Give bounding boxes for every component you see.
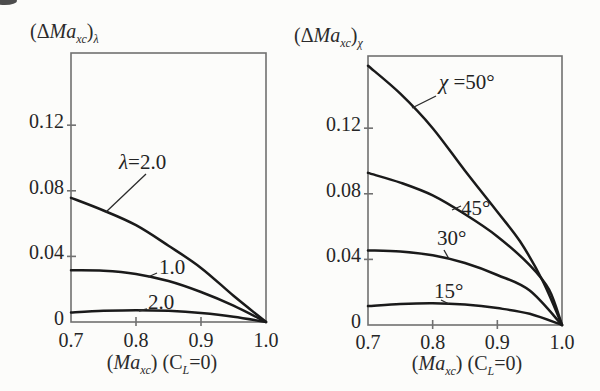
lambda-chart-x-tick-label: 0.9 — [179, 329, 223, 351]
lambda-chart-leader-lambda-2.0 — [106, 174, 146, 212]
lambda-chart-x-tick-label: 1.0 — [244, 329, 288, 351]
chi-chart-curve-label-chi-15: 15° — [434, 279, 463, 304]
chi-chart-x-tick-label: 0.8 — [411, 331, 455, 353]
lambda-chart-y-tick-label: 0.12 — [4, 110, 64, 132]
chi-chart-curve-label-chi-45: 45° — [461, 196, 490, 221]
chi-chart-y-axis-title: (ΔMaxc)χ — [294, 24, 363, 47]
lambda-chart-y-axis-title: (ΔMaxc)λ — [30, 20, 99, 43]
lambda-chart-curve-label-lambda-2.0: λ=2.0 — [119, 150, 166, 175]
lambda-chart-x-tick-label: 0.8 — [114, 329, 158, 351]
chi-chart-x-tick-label: 0.7 — [346, 331, 390, 353]
lambda-chart-y-tick-label: 0 — [4, 307, 64, 329]
chi-chart-y-tick-label: 0 — [301, 310, 361, 332]
lambda-chart-curve-label-lambda-1.0: 1.0 — [159, 255, 185, 280]
chi-chart-x-axis-title: (Maxc) (CL=0) — [412, 352, 522, 375]
chi-chart-leader-chi-50 — [412, 96, 436, 108]
lambda-chart-y-tick-label: 0.04 — [4, 241, 64, 263]
chi-chart-y-tick-label: 0.08 — [301, 179, 361, 201]
lambda-chart-y-tick-label: 0.08 — [4, 176, 64, 198]
chi-chart-curve-label-chi-30: 30° — [437, 226, 466, 251]
scan-smudge — [0, 0, 17, 5]
chi-chart-y-tick-label: 0.12 — [301, 113, 361, 135]
figure: (ΔMaxc)λ (ΔMaxc)χ (Maxc) (CL=0) (Maxc) (… — [0, 0, 600, 391]
chi-chart-x-tick-label: 1.0 — [540, 331, 584, 353]
chi-chart-x-tick-label: 0.9 — [475, 331, 519, 353]
chi-chart-y-tick-label: 0.04 — [301, 244, 361, 266]
chi-chart-frame — [368, 56, 562, 325]
lambda-chart-x-axis-title: (Maxc) (CL=0) — [107, 351, 217, 374]
chi-chart-curve-chi-15 — [368, 303, 562, 325]
lambda-chart-curve-label-lambda-2.0-lower: 2.0 — [148, 290, 174, 315]
lambda-chart-x-tick-label: 0.7 — [49, 329, 93, 351]
chi-chart-curve-label-chi-50: χ =50° — [439, 70, 495, 95]
